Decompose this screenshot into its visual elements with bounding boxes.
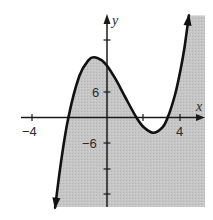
x-tick-label-neg4: −4 — [22, 124, 37, 139]
y-tick-label-neg6: −6 — [82, 136, 97, 151]
curve-arrow-up-icon — [184, 14, 192, 27]
cubic-graph: x y −4 4 6 −6 — [0, 0, 213, 220]
y-axis-label: y — [110, 13, 119, 28]
y-tick-label-6: 6 — [92, 85, 99, 100]
shaded-region — [55, 16, 205, 208]
x-tick-label-4: 4 — [176, 124, 183, 139]
y-axis-arrow-icon — [104, 14, 111, 24]
x-axis-label: x — [195, 99, 203, 114]
